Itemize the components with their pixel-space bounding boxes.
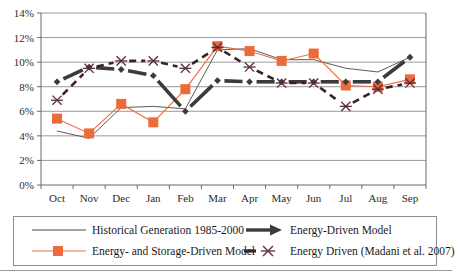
- y-axis-tick-labels: 0%2%4%6%8%10%12%14%: [14, 7, 34, 191]
- data-point-marker: [245, 46, 255, 56]
- data-series-layer: [51, 41, 416, 138]
- data-point-marker: [277, 56, 287, 66]
- series-segment: [353, 93, 371, 103]
- series-3: [51, 43, 416, 111]
- y-axis-tick-label: 4%: [19, 130, 34, 142]
- data-point-marker: [310, 78, 317, 85]
- y-axis-tick-label: 10%: [14, 56, 34, 68]
- chart-legend: Historical Generation 1985-2000 Energy- …: [13, 216, 437, 266]
- y-axis-tick-label: 14%: [14, 7, 34, 19]
- data-point-marker: [52, 114, 62, 124]
- series-segment: [190, 85, 212, 106]
- data-point-marker: [115, 56, 127, 65]
- data-point-marker: [212, 41, 222, 51]
- series-2: [54, 54, 414, 115]
- data-point-marker: [180, 84, 190, 94]
- data-point-marker: [309, 49, 319, 59]
- series-segment: [161, 63, 177, 67]
- x-axis-tick-label: Mar: [208, 192, 227, 204]
- legend-label-energy-driven: Energy-Driven Model: [290, 224, 392, 236]
- legend-marker-thin-line: [30, 222, 88, 238]
- legend-marker-dashed-x: [242, 243, 284, 259]
- legend-item-energy-driven[interactable]: Energy-Driven Model: [242, 222, 392, 238]
- y-axis-ticks: [37, 13, 41, 185]
- data-point-marker: [246, 78, 253, 85]
- x-axis-ticks: [41, 185, 426, 189]
- series-segment: [383, 61, 404, 77]
- series-segment: [386, 85, 402, 88]
- x-axis-tick-label: Dec: [112, 192, 130, 204]
- series-segment: [158, 81, 181, 106]
- x-axis-tick-label: Feb: [177, 192, 194, 204]
- x-axis-tick-label: Apr: [241, 192, 258, 204]
- y-axis-tick-label: 8%: [19, 81, 34, 93]
- data-point-marker: [118, 66, 125, 73]
- legend-marker-thick-arrow: [242, 222, 284, 238]
- x-axis-tick-label: Jun: [306, 192, 322, 204]
- data-point-marker: [147, 56, 159, 65]
- data-point-marker: [148, 117, 158, 127]
- y-axis-tick-label: 12%: [14, 32, 34, 44]
- line-chart-svg: 0%2%4%6%8%10%12%14% OctNovDecJanFebMarAp…: [0, 0, 452, 205]
- x-axis-tick-label: May: [272, 192, 293, 204]
- data-point-marker: [407, 54, 414, 61]
- data-point-marker: [214, 77, 221, 84]
- data-point-marker: [179, 64, 191, 73]
- data-point-marker: [150, 72, 157, 79]
- legend-label-energy-storage: Energy- and Storage-Driven Model: [92, 245, 255, 257]
- series-line: [57, 46, 410, 133]
- data-point-marker: [116, 99, 126, 109]
- data-point-marker: [244, 62, 256, 71]
- series-segment: [96, 68, 114, 69]
- bottom-divider: [0, 270, 452, 271]
- data-point-marker: [84, 128, 94, 138]
- data-point-marker: [54, 78, 61, 85]
- series-segment: [224, 52, 242, 63]
- series-1: [52, 41, 415, 138]
- data-point-marker: [278, 78, 285, 85]
- series-segment: [257, 71, 275, 80]
- legend-item-energy-driven-madani[interactable]: Energy Driven (Madani et al. 2007): [242, 243, 455, 259]
- x-axis-tick-label: Sep: [402, 192, 419, 204]
- series-segment: [224, 81, 242, 82]
- series-segment: [128, 71, 146, 75]
- plot-area: 0%2%4%6%8%10%12%14% OctNovDecJanFebMarAp…: [0, 0, 452, 205]
- legend-item-energy-storage[interactable]: Energy- and Storage-Driven Model: [30, 243, 255, 259]
- legend-label-energy-driven-madani: Energy Driven (Madani et al. 2007): [290, 245, 455, 257]
- x-axis-tick-label: Oct: [49, 192, 65, 204]
- x-axis-tick-label: Nov: [80, 192, 99, 204]
- x-axis-tick-label: Aug: [368, 192, 387, 204]
- x-axis-tick-labels: OctNovDecJanFebMarAprMayJunJulAugSep: [49, 192, 419, 204]
- data-point-marker: [340, 102, 352, 111]
- y-axis-tick-label: 2%: [19, 154, 34, 166]
- x-axis-tick-label: Jul: [339, 192, 352, 204]
- series-segment: [97, 63, 113, 67]
- data-point-marker: [51, 96, 63, 105]
- y-axis-tick-label: 0%: [19, 179, 34, 191]
- y-axis-tick-label: 6%: [19, 105, 34, 117]
- data-point-marker: [86, 64, 93, 71]
- legend-label-historical: Historical Generation 1985-2000: [92, 224, 244, 236]
- legend-item-historical[interactable]: Historical Generation 1985-2000: [30, 222, 244, 238]
- x-axis-tick-label: Jan: [146, 192, 161, 204]
- series-segment: [320, 88, 339, 102]
- legend-marker-orange-square-line: [30, 243, 88, 259]
